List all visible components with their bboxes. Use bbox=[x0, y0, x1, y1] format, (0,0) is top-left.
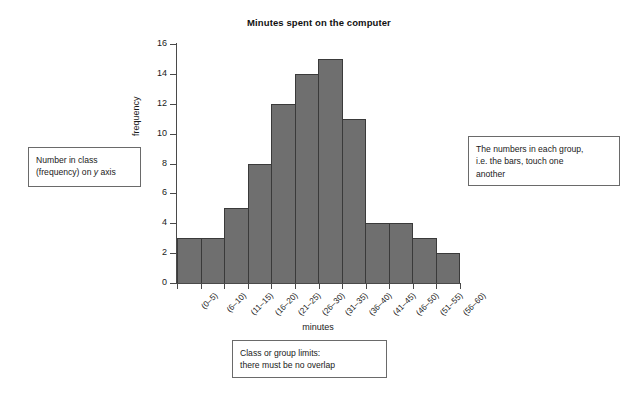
x-tick-label: (16–20) bbox=[273, 291, 299, 317]
x-tick-mark bbox=[248, 283, 249, 289]
bar bbox=[389, 223, 414, 283]
bar bbox=[295, 74, 320, 283]
x-tick-mark bbox=[389, 283, 390, 289]
y-tick-mark bbox=[170, 44, 177, 45]
x-tick-mark bbox=[319, 283, 320, 289]
x-tick-label: (6–10) bbox=[225, 291, 248, 314]
x-tick-mark bbox=[224, 283, 225, 289]
y-tick-mark bbox=[170, 283, 177, 284]
bar bbox=[342, 119, 367, 283]
callout-left-line2-prefix: (frequency) on bbox=[36, 167, 94, 177]
y-tick-label: 4 bbox=[150, 217, 167, 227]
y-tick-mark bbox=[170, 253, 177, 254]
x-tick-mark bbox=[295, 283, 296, 289]
x-tick-label: (0–5) bbox=[200, 291, 220, 311]
y-tick-label: 14 bbox=[150, 68, 167, 78]
y-tick-mark bbox=[170, 164, 177, 165]
histogram-figure: Minutes spent on the computer 0246810121… bbox=[0, 0, 629, 394]
x-tick-mark bbox=[366, 283, 367, 289]
x-tick-label: (26–30) bbox=[320, 291, 346, 317]
x-tick-label: (11–15) bbox=[249, 291, 275, 317]
callout-bottom-line2: there must be no overlap bbox=[240, 359, 379, 371]
plot-area bbox=[177, 44, 460, 283]
x-tick-mark bbox=[201, 283, 202, 289]
bar bbox=[318, 59, 343, 283]
x-tick-label: (51–55) bbox=[438, 291, 464, 317]
x-tick-mark bbox=[413, 283, 414, 289]
bar-series bbox=[177, 44, 460, 283]
bar bbox=[177, 238, 202, 283]
bar bbox=[248, 164, 273, 284]
x-axis-label: minutes bbox=[258, 322, 378, 332]
y-tick-label: 2 bbox=[150, 247, 167, 257]
y-tick-mark bbox=[170, 193, 177, 194]
y-tick-label: 6 bbox=[150, 187, 167, 197]
x-tick-mark bbox=[177, 283, 178, 289]
bar bbox=[271, 104, 296, 283]
callout-right-line3: another bbox=[476, 168, 612, 180]
y-tick-mark bbox=[170, 134, 177, 135]
y-tick-label: 16 bbox=[150, 38, 167, 48]
chart-title: Minutes spent on the computer bbox=[178, 17, 460, 28]
y-tick-mark bbox=[170, 74, 177, 75]
y-axis-label: frequency bbox=[131, 96, 141, 136]
x-tick-label: (56–60) bbox=[461, 291, 487, 317]
bar bbox=[436, 253, 461, 283]
x-axis-line bbox=[170, 283, 461, 284]
y-tick-mark bbox=[170, 223, 177, 224]
x-tick-mark bbox=[271, 283, 272, 289]
x-tick-label: (31–35) bbox=[343, 291, 369, 317]
x-tick-label: (36–40) bbox=[367, 291, 393, 317]
callout-class-limits: Class or group limits: there must be no … bbox=[232, 340, 387, 378]
bar bbox=[201, 238, 226, 283]
callout-bottom-line1: Class or group limits: bbox=[240, 347, 379, 359]
x-tick-mark bbox=[460, 283, 461, 289]
callout-right-line1: The numbers in each group, bbox=[476, 143, 612, 155]
x-tick-label: (21–25) bbox=[296, 291, 322, 317]
x-tick-label: (41–45) bbox=[391, 291, 417, 317]
x-tick-mark bbox=[436, 283, 437, 289]
y-tick-label: 12 bbox=[150, 98, 167, 108]
bar bbox=[412, 238, 437, 283]
callout-right-line2: i.e. the bars, touch one bbox=[476, 155, 612, 167]
y-tick-label: 0 bbox=[150, 277, 167, 287]
x-tick-mark bbox=[342, 283, 343, 289]
callout-left-line1: Number in class bbox=[36, 154, 133, 166]
y-tick-mark bbox=[170, 104, 177, 105]
callout-left-line2: (frequency) on y axis bbox=[36, 166, 133, 178]
y-tick-label: 8 bbox=[150, 158, 167, 168]
callout-frequency-axis: Number in class (frequency) on y axis bbox=[28, 147, 141, 187]
bar bbox=[224, 208, 249, 283]
y-tick-label: 10 bbox=[150, 128, 167, 138]
bar bbox=[365, 223, 390, 283]
callout-left-line2-suffix: axis bbox=[98, 167, 116, 177]
x-tick-label: (46–50) bbox=[414, 291, 440, 317]
callout-bars-touch: The numbers in each group, i.e. the bars… bbox=[468, 136, 620, 186]
